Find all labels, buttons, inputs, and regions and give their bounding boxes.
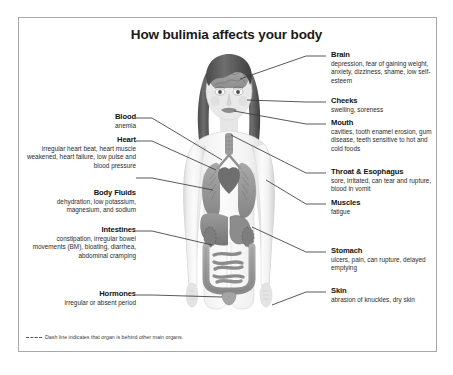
label-body: dehydration, low potassium, magnesium, a…	[40, 198, 136, 214]
label-heading: Cheeks	[331, 96, 435, 106]
label-throat-esophagus: Throat & Esophagus sore, irritated, can …	[331, 167, 437, 194]
label-body: constipation, irregular bowel movements …	[28, 235, 136, 260]
label-body: depression, fear of gaining weight, anxi…	[331, 60, 435, 85]
trachea-organ	[225, 133, 233, 155]
infographic-poster: How bulimia affects your body	[0, 0, 453, 375]
label-body-fluids: Body Fluids dehydration, low potassium, …	[40, 188, 136, 215]
label-mouth: Mouth cavities, tooth enamel erosion, gu…	[331, 118, 437, 153]
dashed-line-icon	[26, 337, 42, 338]
label-body: ulcers, pain, can rupture, delayed empty…	[331, 256, 435, 272]
label-heading: Blood	[40, 112, 136, 122]
label-heading: Brain	[331, 50, 435, 60]
label-heading: Skin	[331, 286, 435, 296]
label-heading: Muscles	[331, 198, 435, 208]
label-body: cavities, tooth enamel erosion, gum dise…	[331, 128, 437, 153]
label-skin: Skin abrasion of knuckles, dry skin	[331, 286, 435, 304]
label-brain: Brain depression, fear of gaining weight…	[331, 50, 435, 85]
label-body: irregular heart beat, heart muscle weake…	[26, 145, 136, 170]
label-muscles: Muscles fatigue	[331, 198, 435, 216]
label-blood: Blood anemia	[40, 112, 136, 130]
label-heart: Heart irregular heart beat, heart muscle…	[26, 135, 136, 170]
label-body: sore, irritated, can tear and rupture, b…	[331, 177, 437, 193]
label-cheeks: Cheeks swelling, soreness	[331, 96, 435, 114]
label-heading: Mouth	[331, 118, 437, 128]
label-heading: Intestines	[28, 225, 136, 235]
footnote-text: Dash line indicates that organ is behind…	[45, 334, 183, 340]
label-hormones: Hormones irregular or absent period	[28, 289, 136, 307]
label-body: fatigue	[331, 208, 435, 216]
label-heading: Throat & Esophagus	[331, 167, 437, 177]
label-heading: Stomach	[331, 246, 435, 256]
label-body: swelling, soreness	[331, 106, 435, 114]
label-body: anemia	[40, 122, 136, 130]
label-intestines: Intestines constipation, irregular bowel…	[28, 225, 136, 260]
label-heading: Heart	[26, 135, 136, 145]
label-body: abrasion of knuckles, dry skin	[331, 296, 435, 304]
page-title: How bulimia affects your body	[0, 27, 453, 42]
human-body-anatomy-illustration	[170, 47, 288, 317]
cheek-right	[239, 96, 248, 106]
cheek-left	[211, 96, 220, 106]
footnote: Dash line indicates that organ is behind…	[26, 334, 183, 340]
label-heading: Body Fluids	[40, 188, 136, 198]
label-heading: Hormones	[28, 289, 136, 299]
label-stomach: Stomach ulcers, pain, can rupture, delay…	[331, 246, 435, 273]
label-body: irregular or absent period	[28, 299, 136, 307]
